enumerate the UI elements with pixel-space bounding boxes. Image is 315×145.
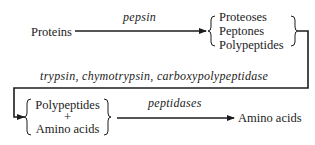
peptidases-label: peptidases — [148, 96, 202, 110]
right-brace-top — [291, 16, 298, 46]
step2-enzymes-label: trypsin, chymotrypsin, carboxypolypeptid… — [40, 69, 268, 83]
proteins-label: Proteins — [31, 25, 72, 39]
right-brace-bottom — [104, 99, 111, 135]
peptones-label: Peptones — [219, 24, 264, 38]
polypeptides-label: Polypeptides — [219, 38, 284, 52]
proteoses-label: Proteoses — [219, 10, 267, 24]
final-amino-acids-label: Amino acids — [238, 111, 302, 125]
left-brace-bottom — [24, 99, 31, 135]
amino-acids-bottom-label: Amino acids — [31, 122, 104, 136]
left-brace-top — [208, 16, 215, 46]
pepsin-label: pepsin — [123, 10, 156, 24]
